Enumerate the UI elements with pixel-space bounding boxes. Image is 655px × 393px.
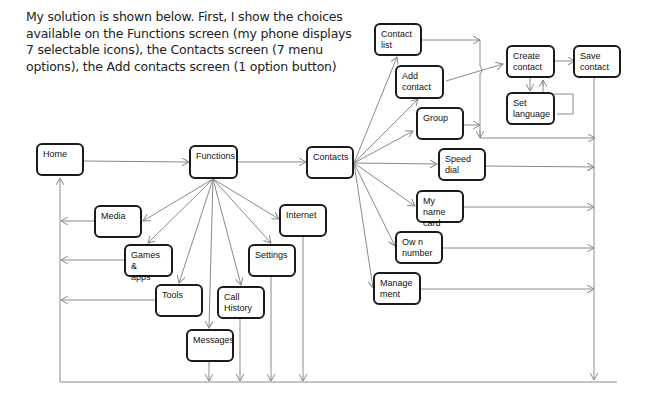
node-label: Contact list (381, 29, 415, 51)
node-label: Internet (286, 210, 320, 221)
node-label: Add contact (402, 71, 437, 93)
node-label: Create contact (513, 51, 548, 73)
node-label: Speed dial (445, 154, 479, 176)
node-label: Ow n number (402, 237, 436, 259)
node-label: Games & apps (131, 250, 166, 283)
node-internet: Internet (279, 204, 327, 237)
node-create-contact: Create contact (506, 45, 555, 78)
navigation-diagram: My solution is shown below. First, I sho… (0, 0, 655, 393)
node-own-number: Ow n number (395, 231, 443, 264)
node-my-name-card: My name card (416, 190, 464, 223)
node-label: Settings (255, 250, 289, 261)
node-tools: Tools (155, 284, 203, 317)
edges-layer (0, 0, 655, 393)
node-functions: Functions (189, 145, 238, 179)
node-contact-list: Contact list (374, 23, 422, 56)
node-label: My name card (423, 196, 457, 229)
node-management: Manage ment (373, 272, 421, 305)
node-home: Home (36, 143, 84, 176)
node-messages: Messages (186, 329, 234, 362)
node-label: Manage ment (380, 278, 414, 300)
node-label: Media (101, 211, 135, 222)
node-label: Contacts (313, 152, 347, 163)
node-media: Media (94, 205, 142, 238)
node-add-contact: Add contact (395, 65, 444, 99)
node-label: Save contact (580, 51, 614, 73)
node-label: Home (43, 149, 77, 160)
node-group: Group (416, 107, 464, 140)
node-call-history: Call History (217, 286, 265, 319)
node-label: Messages (193, 335, 227, 346)
node-label: Tools (162, 290, 196, 301)
node-speed-dial: Speed dial (438, 148, 486, 181)
node-save-contact: Save contact (573, 45, 621, 78)
node-contacts: Contacts (306, 146, 354, 179)
node-label: Set language (513, 98, 548, 120)
node-label: Functions (196, 151, 231, 162)
node-settings: Settings (248, 244, 296, 277)
node-set-language: Set language (506, 92, 555, 125)
node-label: Group (423, 113, 457, 124)
node-label: Call History (224, 292, 258, 314)
node-games-apps: Games & apps (124, 244, 173, 277)
